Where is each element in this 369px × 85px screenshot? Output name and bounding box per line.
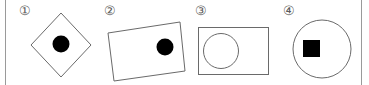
filled-circle bbox=[157, 39, 174, 56]
option-3-figure bbox=[199, 28, 269, 75]
filled-square bbox=[303, 40, 320, 57]
option-2-figure bbox=[108, 22, 185, 81]
hollow-circle bbox=[204, 34, 239, 69]
option-1-figure bbox=[31, 13, 91, 77]
rectangle-shape bbox=[199, 28, 269, 75]
option-4-figure bbox=[293, 20, 351, 78]
figure-canvas bbox=[0, 0, 369, 85]
filled-circle bbox=[53, 36, 70, 53]
tilted-rectangle-shape bbox=[108, 22, 185, 81]
outer-circle bbox=[293, 20, 351, 78]
